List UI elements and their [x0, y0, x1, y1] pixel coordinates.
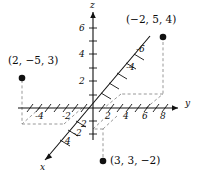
- x-tick-label-neg4: -4: [126, 63, 135, 72]
- z-tick-label-2: 2: [79, 77, 85, 86]
- z-axis-label: z: [90, 1, 95, 10]
- projection-lines-point-a: [22, 80, 82, 124]
- x-axis-label: x: [40, 163, 45, 172]
- point-dot-b: [160, 34, 167, 41]
- point-label-b: (−2, 5, 4): [126, 14, 176, 25]
- point-label-a: (2, −5, 3): [8, 55, 58, 66]
- axes-and-projection-lines: [0, 0, 201, 182]
- y-tick-label-4: 4: [123, 112, 129, 121]
- y-tick-label-neg2: -2: [62, 112, 71, 121]
- point-dot-c: [100, 158, 107, 165]
- y-tick-label-8: 8: [160, 112, 166, 121]
- y-axis-label: y: [185, 99, 190, 108]
- z-tick-label-neg2: -2: [73, 129, 82, 138]
- z-tick-label-4: 4: [79, 50, 85, 59]
- projection-lines-point-c: [93, 116, 117, 157]
- projection-lines-point-b: [104, 42, 163, 108]
- y-tick-label-6: 6: [142, 112, 148, 121]
- z-tick-label-6: 6: [79, 24, 85, 33]
- point-dot-a: [19, 75, 26, 82]
- x-tick-label-4: 4: [65, 137, 71, 146]
- x-tick-label-2: 2: [81, 120, 87, 129]
- x-tick-label-neg6: -6: [136, 45, 145, 54]
- y-tick-label-2: 2: [105, 112, 111, 121]
- three-d-coordinate-figure: y z x 2 4 6 8 -2 -4 6 4 2 -2 2 4 -4 -6 (…: [0, 0, 201, 182]
- point-label-c: (3, 3, −2): [110, 155, 160, 166]
- y-tick-label-neg4: -4: [35, 112, 44, 121]
